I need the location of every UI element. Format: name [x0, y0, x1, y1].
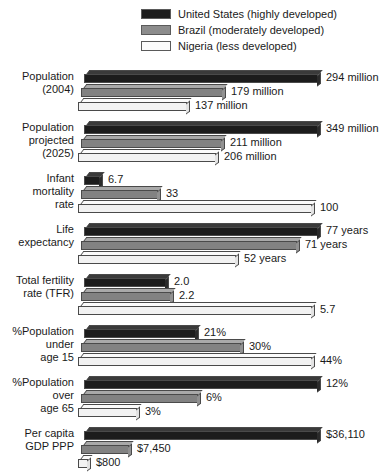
chart-group: %Populationunderage 1521%30%44% — [0, 325, 377, 367]
chart-bar-top-face — [80, 404, 141, 408]
legend-item: Brazil (moderately developed) — [0, 22, 377, 37]
chart-bar-top-face — [86, 223, 322, 227]
chart-bar-row: 44% — [78, 353, 377, 367]
chart-bar — [84, 329, 196, 338]
chart-bar-row: 294 million — [78, 70, 377, 84]
legend-item-label: Brazil (moderately developed) — [178, 24, 324, 36]
chart-bar-row: $36,110 — [78, 427, 377, 441]
chart-bar-top-face — [86, 376, 322, 380]
chart-bar-row: 33 — [78, 186, 377, 200]
chart-group-label-line: under — [0, 338, 74, 351]
chart-bar-value-label: 3% — [145, 405, 161, 417]
chart-bar — [84, 431, 318, 440]
chart-bar-top-face — [83, 339, 245, 343]
chart-bar-row: 77 years — [78, 223, 377, 237]
chart-bar — [81, 343, 241, 352]
chart-bar-top-face — [83, 288, 175, 292]
chart-bar-row: 6% — [78, 390, 377, 404]
chart-group-label: Populationprojected(2025) — [0, 121, 74, 160]
chart-bar-row: 71 years — [78, 237, 377, 251]
chart-bar-row: 206 million — [78, 149, 377, 163]
chart-bar — [78, 255, 236, 264]
chart-bar-top-face — [83, 186, 162, 190]
chart-bar-top-face — [83, 84, 227, 88]
chart-bar-row: $7,450 — [78, 441, 377, 455]
chart-bar-top-face — [86, 70, 322, 74]
chart-group-label: Per capitaGDP PPP — [0, 427, 74, 453]
chart-bar-value-label: 137 million — [195, 99, 248, 111]
chart-group-label-line: over — [0, 389, 74, 402]
chart-bar-value-label: 33 — [166, 187, 178, 199]
chart-group-label: Total fertilityrate (TFR) — [0, 274, 74, 300]
chart-bar — [78, 153, 216, 162]
chart-bar — [78, 204, 312, 213]
chart-group-label-line: Population — [0, 121, 74, 134]
chart-bar-end-cap — [311, 304, 315, 318]
chart-bar-row: 12% — [78, 376, 377, 390]
chart-group: Populationprojected(2025)349 million211 … — [0, 121, 377, 163]
chart-group-label-line: GDP PPP — [0, 440, 74, 453]
chart-legend: United States (highly developed)Brazil (… — [0, 6, 377, 54]
chart-bar — [81, 445, 129, 454]
chart-bar-row: 179 million — [78, 84, 377, 98]
chart-bar-end-cap — [311, 202, 315, 216]
chart-bar-top-face — [86, 427, 322, 431]
chart-bar-value-label: 77 years — [326, 224, 368, 236]
chart-bar-value-label: 30% — [249, 340, 271, 352]
chart-group-label-line: expectancy — [0, 236, 74, 249]
chart-bar-end-cap — [311, 355, 315, 369]
chart-bar — [78, 306, 312, 315]
legend-swatch-united-states — [141, 9, 171, 19]
chart-bar-row: 137 million — [78, 98, 377, 112]
chart-group-label: Lifeexpectancy — [0, 223, 74, 249]
chart-bar-value-label: $7,450 — [137, 442, 171, 454]
chart-bar — [84, 227, 318, 236]
chart-group-label-line: Population — [0, 70, 74, 83]
chart-bar — [81, 241, 297, 250]
chart-group-label-line: age 15 — [0, 351, 74, 364]
chart-bar — [78, 408, 137, 417]
chart-bar-value-label: 71 years — [305, 238, 347, 250]
chart-bar-row: 211 million — [78, 135, 377, 149]
chart-bar-value-label: 52 years — [244, 252, 286, 264]
chart-group: Population(2004)294 million179 million13… — [0, 70, 377, 112]
chart-group: %Populationoverage 6512%6%3% — [0, 376, 377, 418]
chart-bar-row: 5.7 — [78, 302, 377, 316]
chart-bar-top-face — [80, 98, 191, 102]
chart-group-bars: 294 million179 million137 million — [78, 70, 377, 112]
chart-bar-row: 2.2 — [78, 288, 377, 302]
chart-group-bars: 12%6%3% — [78, 376, 377, 418]
chart-group: Infantmortalityrate6.733100 — [0, 172, 377, 214]
chart-group-bars: $36,110$7,450$800 — [78, 427, 377, 469]
chart-group: Total fertilityrate (TFR)2.02.25.7 — [0, 274, 377, 316]
chart-bar — [78, 459, 88, 468]
chart-bar-value-label: 100 — [320, 201, 338, 213]
chart-bar-value-label: 5.7 — [320, 303, 335, 315]
chart-group-bars: 349 million211 million206 million — [78, 121, 377, 163]
chart-bar — [84, 74, 318, 83]
chart-plot-area: Population(2004)294 million179 million13… — [0, 70, 377, 472]
chart-bar-value-label: 6% — [206, 391, 222, 403]
chart-bar-top-face — [80, 149, 220, 153]
chart-bar-value-label: 21% — [204, 326, 226, 338]
chart-group-label-line: Life — [0, 223, 74, 236]
chart-group-label-line: rate (TFR) — [0, 287, 74, 300]
chart-bar-top-face — [83, 135, 226, 139]
chart-bar-top-face — [83, 237, 301, 241]
chart-group: Lifeexpectancy77 years71 years52 years — [0, 223, 377, 265]
legend-swatch-nigeria — [141, 41, 171, 51]
chart-group-label-line: rate — [0, 198, 74, 211]
chart-bar — [84, 125, 318, 134]
chart-bar-top-face — [80, 353, 316, 357]
chart-group-label-line: %Population — [0, 325, 74, 338]
legend-item-label: United States (highly developed) — [178, 8, 337, 20]
chart-bar — [84, 380, 318, 389]
chart-bar-end-cap — [136, 406, 140, 420]
chart-bar-end-cap — [235, 253, 239, 267]
legend-item: Nigeria (less developed) — [0, 38, 377, 53]
chart-bar-top-face — [86, 121, 322, 125]
chart-group-bars: 6.733100 — [78, 172, 377, 214]
legend-item-label: Nigeria (less developed) — [178, 40, 297, 52]
chart-bar-row: 6.7 — [78, 172, 377, 186]
chart-bar — [78, 102, 187, 111]
